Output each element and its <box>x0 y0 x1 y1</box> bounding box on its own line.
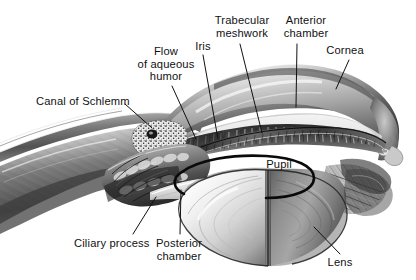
label-canal-of-schlemm: Canal of Schlemm <box>36 95 130 108</box>
label-iris: Iris <box>190 40 216 53</box>
label-ciliary-process: Ciliary process <box>74 237 150 250</box>
label-cornea: Cornea <box>322 44 368 57</box>
label-pupil: Pupil <box>262 158 296 171</box>
label-flow-of-aqueous-humor: Flow of aqueous humor <box>135 45 197 83</box>
label-trabecular-meshwork: Trabecular meshwork <box>212 14 272 39</box>
eye-anatomy-figure: Canal of Schlemm Flow of aqueous humor I… <box>0 0 416 280</box>
label-lens: Lens <box>324 256 356 269</box>
label-anterior-chamber: Anterior chamber <box>280 14 332 39</box>
label-posterior-chamber: Posterior chamber <box>152 237 206 262</box>
